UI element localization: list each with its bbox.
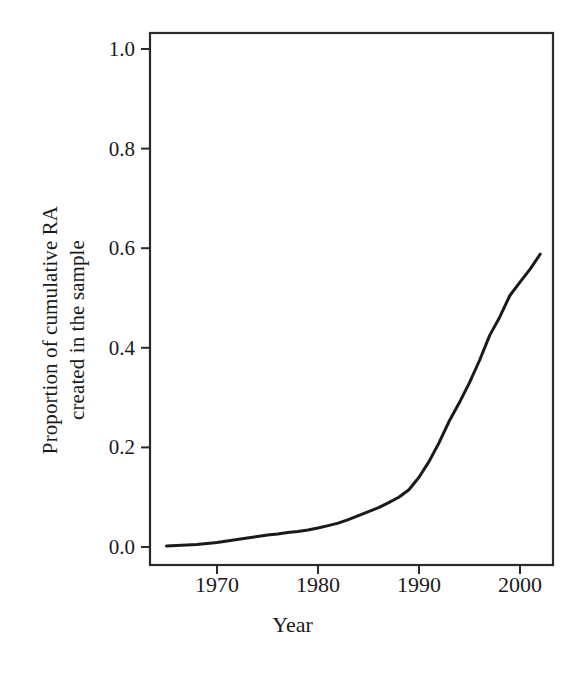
y-axis-ticks [141, 49, 150, 547]
x-axis-ticks [217, 565, 520, 574]
chart-figure: Proportion of cumulative RA created in t… [0, 0, 585, 673]
plot-area [0, 0, 585, 673]
plot-frame [150, 33, 553, 565]
x-axis-title: Year [0, 612, 585, 638]
data-series-line [167, 254, 541, 546]
